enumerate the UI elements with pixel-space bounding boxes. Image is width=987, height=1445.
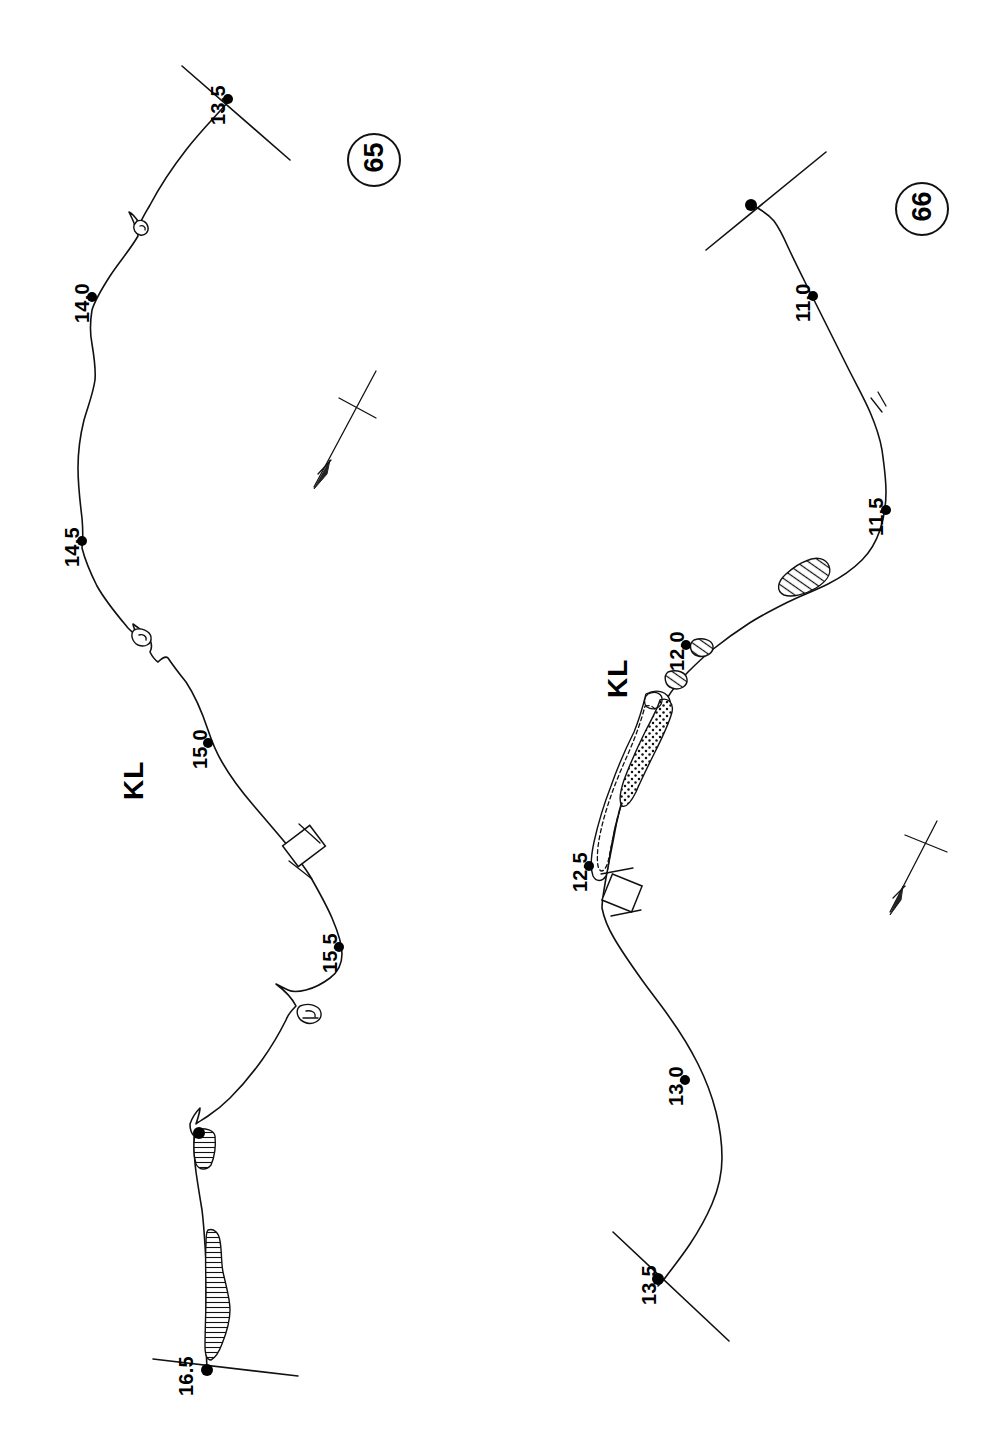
sandbar-fig65-lower [205, 1230, 230, 1360]
sandbar-small-b-fig66 [665, 671, 687, 689]
north-arrow-fig66 [890, 821, 947, 915]
river-mile-label-110-fig66: 11.0 [793, 283, 813, 322]
survey-dot-junction-fig65 [193, 1127, 205, 1139]
river-mile-label-130-fig66: 13.0 [666, 1066, 686, 1106]
figure-number-66: 66 [909, 194, 936, 222]
structure-fig65 [283, 824, 326, 879]
channel-label-kl-fig65: KL [120, 761, 148, 800]
island-fig65-c [297, 1004, 321, 1023]
river-mile-label-125-fig66: 12.5 [570, 852, 590, 892]
island-fig65-a [134, 220, 148, 235]
channel-label-kl-fig66: KL [604, 659, 632, 698]
river-mile-label-115-fig66: 11.5 [866, 497, 886, 536]
figure-65-map [77, 66, 400, 1376]
island-fig65-b [132, 629, 151, 646]
river-mile-label-150-fig65: 15.0 [190, 729, 210, 769]
river-mile-label-120-fig66: 12.0 [667, 631, 687, 671]
section-line-top-fig66 [706, 152, 826, 250]
sandbar-small-a-fig66 [691, 639, 714, 657]
river-mile-label-135-fig65: 13.5 [208, 85, 228, 125]
survey-dot-165-fig65 [201, 1364, 213, 1376]
section-line-135-fig66 [613, 1232, 729, 1341]
north-arrow-fig65 [314, 371, 376, 489]
map-canvas [0, 0, 987, 1445]
river-mile-label-145-fig65: 14.5 [62, 527, 82, 567]
river-mile-label-140-fig65: 14.0 [72, 283, 92, 323]
river-mile-label-155-fig65: 15.5 [320, 933, 340, 973]
sandbar-diagonal-fig66 [779, 558, 830, 596]
tributary-tick-fig66 [871, 392, 886, 412]
section-line-135-fig65 [182, 66, 290, 160]
figure-66-map [584, 152, 948, 1341]
figure-number-65: 65 [361, 145, 388, 173]
island-complex-fig66 [591, 691, 672, 880]
river-mile-label-135-fig66: 13.5 [639, 1265, 659, 1305]
river-mile-label-165-fig65: 16.5 [176, 1356, 196, 1396]
survey-sheet: 13.5 14.0 14.5 15.0 15.5 16.5 KL 65 11.0… [0, 0, 987, 1445]
survey-dot-top-fig66 [745, 199, 757, 211]
